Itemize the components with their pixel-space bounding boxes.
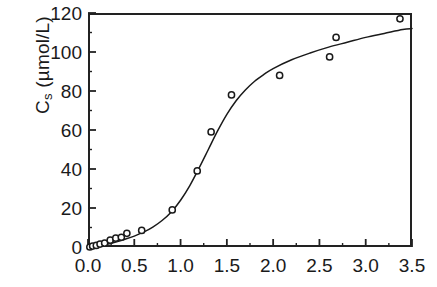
data-point: [333, 34, 339, 40]
data-point: [228, 92, 234, 98]
x-axis-tick-label: 3.5: [384, 256, 437, 275]
fitted-curve: [88, 29, 412, 247]
data-point: [139, 227, 145, 233]
data-point: [124, 230, 130, 236]
data-point: [169, 207, 175, 213]
data-point: [277, 72, 283, 78]
figure-canvas: Cs (µmol/L) 020406080100120 0.00.51.01.5…: [0, 0, 437, 287]
data-point: [208, 129, 214, 135]
plot-graphics: [88, 13, 412, 247]
data-point: [327, 54, 333, 60]
data-point: [397, 16, 403, 22]
data-point: [194, 168, 200, 174]
plot-area: [88, 13, 412, 247]
